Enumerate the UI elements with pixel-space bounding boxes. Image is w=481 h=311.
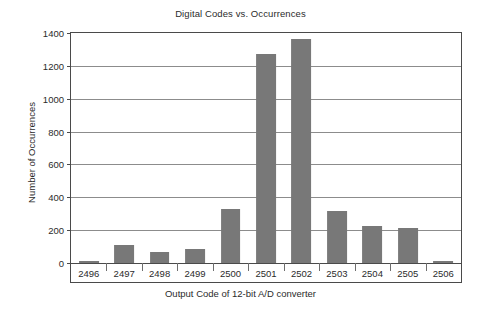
- x-axis-separator: [142, 263, 143, 271]
- bar-slot: [71, 33, 106, 263]
- bar-slot: [355, 33, 390, 263]
- y-tick-label: 0: [59, 258, 64, 269]
- y-tick-label: 1000: [43, 93, 64, 104]
- x-tick-label-2501: 2501: [255, 268, 276, 279]
- x-tick-label-2498: 2498: [149, 268, 170, 279]
- x-tick-label-2502: 2502: [291, 268, 312, 279]
- bar-slot: [248, 33, 283, 263]
- bar-slot: [142, 33, 177, 263]
- x-tick-label-2497: 2497: [114, 268, 135, 279]
- bar-slot: [390, 33, 425, 263]
- x-axis-title: Output Code of 12-bit A/D converter: [0, 288, 481, 299]
- x-tick-label-2504: 2504: [362, 268, 383, 279]
- bar-2498[interactable]: [150, 252, 170, 263]
- y-tick-label: 800: [48, 126, 64, 137]
- plot-area: 0200400600800100012001400: [70, 32, 462, 264]
- bar-2502[interactable]: [292, 39, 312, 263]
- x-tick-label-2500: 2500: [220, 268, 241, 279]
- x-axis-separator: [355, 263, 356, 271]
- y-tick-label: 1200: [43, 60, 64, 71]
- bar-chart-figure: Digital Codes vs. Occurrences Number of …: [0, 0, 481, 311]
- y-axis-title: Number of Occurrences: [26, 38, 37, 268]
- x-tick-label-2503: 2503: [326, 268, 347, 279]
- x-axis-separator: [248, 263, 249, 271]
- bar-2497[interactable]: [114, 245, 134, 263]
- x-axis-separator: [426, 263, 427, 271]
- x-tick-label-2505: 2505: [397, 268, 418, 279]
- bar-slot: [177, 33, 212, 263]
- x-tick-label-2499: 2499: [185, 268, 206, 279]
- bar-2501[interactable]: [256, 54, 276, 263]
- bar-2505[interactable]: [398, 228, 418, 263]
- y-tick-label: 600: [48, 159, 64, 170]
- x-tick-label-2506: 2506: [433, 268, 454, 279]
- x-axis-separator: [319, 263, 320, 271]
- x-axis-separator: [390, 263, 391, 271]
- bar-2503[interactable]: [327, 211, 347, 263]
- y-tick-label: 200: [48, 225, 64, 236]
- chart-title: Digital Codes vs. Occurrences: [0, 8, 481, 19]
- x-axis-separator: [177, 263, 178, 271]
- bar-slot: [319, 33, 354, 263]
- y-tick-label: 1400: [43, 28, 64, 39]
- bar-slot: [284, 33, 319, 263]
- x-axis-band: 2496249724982499250025012502250325042505…: [70, 263, 462, 283]
- bar-slot: [106, 33, 141, 263]
- bars-layer: [71, 33, 461, 263]
- bar-2499[interactable]: [185, 249, 205, 263]
- y-tick-label: 400: [48, 192, 64, 203]
- x-axis-separator: [213, 263, 214, 271]
- x-axis-separator: [106, 263, 107, 271]
- bar-slot: [213, 33, 248, 263]
- bar-2500[interactable]: [221, 209, 241, 263]
- x-tick-label-2496: 2496: [78, 268, 99, 279]
- bar-slot: [426, 33, 461, 263]
- bar-2504[interactable]: [362, 226, 382, 263]
- x-axis-separator: [284, 263, 285, 271]
